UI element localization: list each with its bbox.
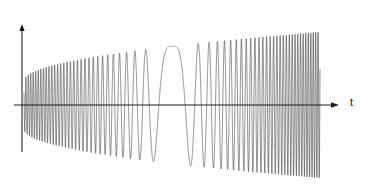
plot-canvas bbox=[0, 0, 369, 193]
x-axis-label: t bbox=[350, 97, 353, 108]
chirp-figure: (1+√t )cos50(2 − t)2 t bbox=[0, 0, 369, 193]
